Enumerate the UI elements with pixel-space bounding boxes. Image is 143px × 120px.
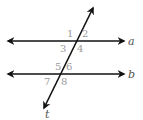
- angle-8-label: 8: [61, 76, 67, 87]
- transversal-t: [44, 8, 93, 108]
- angle-6-label: 6: [66, 61, 72, 72]
- transversal-label: t: [45, 108, 50, 120]
- angle-4-label: 4: [77, 43, 83, 54]
- angle-5-label: 5: [55, 61, 61, 72]
- angle-3-label: 3: [60, 43, 66, 54]
- angle-7-label: 7: [44, 76, 50, 87]
- line-b-label: b: [128, 68, 135, 81]
- angle-2-label: 2: [82, 28, 88, 39]
- line-a-label: a: [128, 35, 135, 48]
- parallel-lines-diagram: a b t 1 2 3 4 5 6 7 8: [0, 0, 143, 120]
- angle-1-label: 1: [67, 28, 73, 39]
